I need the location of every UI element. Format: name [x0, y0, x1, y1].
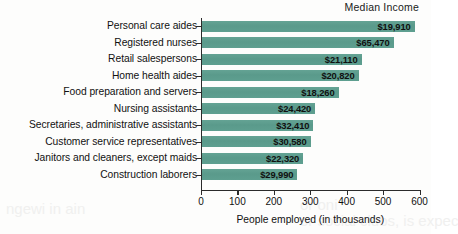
- bar-value-label: $24,420: [265, 103, 311, 114]
- plot-area: Personal care aides$19,910Registered nur…: [0, 18, 431, 188]
- chart-row: Secretaries, administrative assistants$3…: [0, 117, 431, 134]
- x-axis-tick: [420, 190, 421, 195]
- chart-row: Registered nurses$65,470: [0, 35, 431, 52]
- x-axis-tick: [201, 190, 202, 195]
- chart-row: Customer service representatives$30,580: [0, 134, 431, 151]
- x-axis-tick: [383, 190, 384, 195]
- bar-value-label: $29,990: [247, 169, 293, 180]
- bar-value-label: $19,910: [365, 21, 411, 32]
- category-label: Personal care aides: [107, 18, 197, 35]
- x-axis-tick-label: 100: [229, 196, 246, 207]
- chart-row: Food preparation and servers$18,260: [0, 84, 431, 101]
- chart-row: Nursing assistants$24,420: [0, 101, 431, 118]
- bar-value-label: $21,110: [312, 54, 358, 65]
- bar-value-label: $20,820: [309, 70, 355, 81]
- category-label: Registered nurses: [114, 35, 197, 52]
- bleed-text-left: ngewi in ain: [6, 200, 85, 217]
- category-label: Secretaries, administrative assistants: [29, 117, 197, 134]
- x-axis-tick: [347, 190, 348, 195]
- category-label: Home health aides: [112, 68, 197, 85]
- category-label: Retail salespersons: [108, 51, 197, 68]
- bar-value-label: $22,320: [253, 153, 299, 164]
- category-label: Customer service representatives: [45, 134, 197, 151]
- chart-row: Construction laborers$29,990: [0, 167, 431, 184]
- category-label: Janitors and cleaners, except maids: [34, 150, 197, 167]
- x-axis-tick: [237, 190, 238, 195]
- x-axis-tick-label: 300: [302, 196, 319, 207]
- category-label: Construction laborers: [100, 167, 197, 184]
- bar-value-label: $65,470: [344, 37, 390, 48]
- x-axis-tick-label: 200: [265, 196, 282, 207]
- chart-row: Retail salespersons$21,110: [0, 51, 431, 68]
- x-axis-tick-label: 0: [198, 196, 204, 207]
- bar-value-label: $30,580: [261, 136, 307, 147]
- bar-value-label: $32,410: [263, 120, 309, 131]
- x-axis-tick: [274, 190, 275, 195]
- median-income-header: Median Income: [345, 1, 419, 13]
- chart-row: Personal care aides$19,910: [0, 18, 431, 35]
- x-axis-tick-label: 400: [338, 196, 355, 207]
- x-axis-tick-label: 500: [375, 196, 392, 207]
- x-axis-title: People employed (in thousands): [201, 214, 420, 225]
- chart-row: Home health aides$20,820: [0, 68, 431, 85]
- x-axis-tick-label: 600: [411, 196, 428, 207]
- category-label: Nursing assistants: [114, 101, 197, 118]
- chart-row: Janitors and cleaners, except maids$22,3…: [0, 150, 431, 167]
- category-label: Food preparation and servers: [63, 84, 197, 101]
- bar-value-label: $18,260: [289, 87, 335, 98]
- x-axis-tick: [310, 190, 311, 195]
